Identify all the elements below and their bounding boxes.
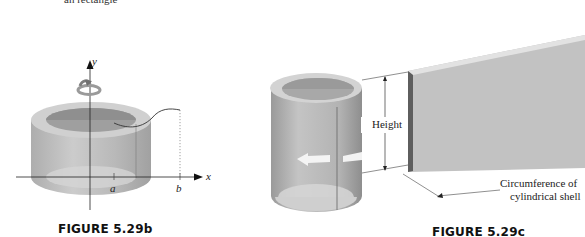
a-label: a xyxy=(110,182,116,194)
circumference-label-line1: Circumference of xyxy=(500,177,585,189)
height-label: Height xyxy=(372,118,402,130)
b-label: b xyxy=(176,182,182,194)
figure-5-29b-caption: FIGURE 5.29b xyxy=(58,222,152,236)
circumference-label-line2: cylindrical shell xyxy=(510,190,585,202)
figure-5-29c-caption: FIGURE 5.29c xyxy=(432,225,525,237)
y-axis-label: y xyxy=(92,55,97,67)
x-axis-label: x xyxy=(206,170,211,182)
figure-5-29b-drawing xyxy=(0,0,585,237)
